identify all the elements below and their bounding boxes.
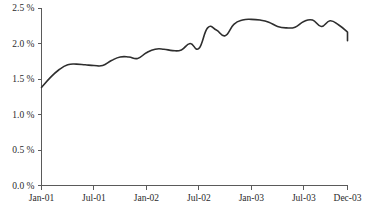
y-axis-tick-labels: 2.5 %2.0 %1.5 %1.0 %0.5 %0.0 % [12,3,34,191]
x-tick-label: Dec-03 [334,193,362,203]
y-tick-label: 0.5 % [12,145,34,155]
y-tick-label: 2.0 % [12,39,34,49]
chart-plot-area: 2.5 %2.0 %1.5 %1.0 %0.5 %0.0 % Jan-01Jul… [0,0,365,205]
x-tick-label: Jul-03 [292,193,316,203]
x-axis-ticks [42,186,348,190]
data-series-line [42,19,348,87]
x-tick-label: Jan-02 [134,193,160,203]
x-axis-tick-labels: Jan-01Jul-01Jan-02Jul-02Jan-03Jul-03Dec-… [29,193,362,203]
x-tick-label: Jan-01 [29,193,55,203]
y-tick-label: 1.0 % [12,110,34,120]
y-tick-label: 1.5 % [12,74,34,84]
x-tick-label: Jul-02 [187,193,211,203]
y-axis-ticks [38,8,42,186]
x-tick-label: Jan-03 [239,193,265,203]
x-tick-label: Jul-01 [82,193,106,203]
y-tick-label: 0.0 % [12,181,34,191]
line-chart: 2.5 %2.0 %1.5 %1.0 %0.5 %0.0 % Jan-01Jul… [0,0,365,205]
y-tick-label: 2.5 % [12,3,34,13]
